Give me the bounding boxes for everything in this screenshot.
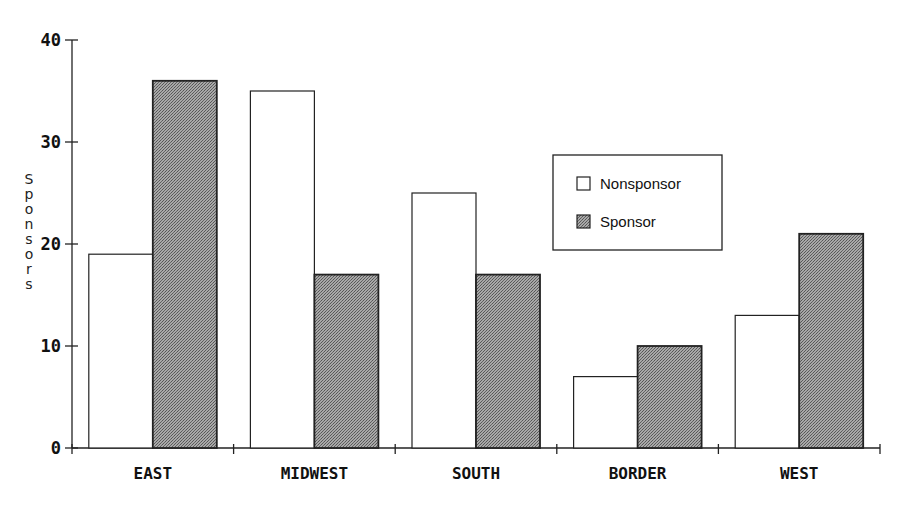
bar-nonsponsor-west <box>735 315 799 448</box>
legend-box <box>553 155 722 250</box>
y-axis-label-char: r <box>26 261 32 277</box>
legend-swatch-sponsor <box>577 215 590 228</box>
bar-chart: 010203040 EASTMIDWESTSOUTHBORDERWEST Spo… <box>0 0 905 512</box>
x-category-label: EAST <box>134 464 173 483</box>
y-axis-label: Sponsors <box>25 171 34 292</box>
bar-sponsor-south <box>476 275 540 448</box>
y-axis-label-char: o <box>25 246 34 262</box>
y-tick-label: 40 <box>41 30 61 50</box>
y-axis-label-char: S <box>25 171 34 187</box>
y-axis-label-char: p <box>25 186 34 202</box>
y-axis: 010203040 <box>41 30 78 458</box>
bar-sponsor-midwest <box>314 275 378 448</box>
bar-nonsponsor-midwest <box>250 91 314 448</box>
x-category-label: MIDWEST <box>281 464 348 483</box>
y-tick-label: 20 <box>41 234 61 254</box>
y-axis-label-char: o <box>25 201 34 217</box>
bar-sponsor-east <box>153 81 217 448</box>
y-axis-label-char: n <box>25 216 34 232</box>
x-category-label: BORDER <box>609 464 667 483</box>
x-category-label: SOUTH <box>452 464 500 483</box>
y-axis-label-char: s <box>25 276 32 292</box>
y-tick-label: 30 <box>41 132 61 152</box>
y-tick-label: 10 <box>41 336 61 356</box>
x-category-label: WEST <box>780 464 819 483</box>
y-axis-label-char: s <box>25 231 32 247</box>
y-tick-label: 0 <box>51 438 61 458</box>
bars <box>89 81 863 448</box>
legend-label-nonsponsor: Nonsponsor <box>600 175 681 192</box>
bar-sponsor-border <box>638 346 702 448</box>
bar-nonsponsor-border <box>574 377 638 448</box>
legend-label-sponsor: Sponsor <box>600 213 656 230</box>
bar-nonsponsor-south <box>412 193 476 448</box>
legend-swatch-nonsponsor <box>577 177 590 190</box>
bar-nonsponsor-east <box>89 254 153 448</box>
legend: Nonsponsor Sponsor <box>553 155 722 250</box>
x-axis: EASTMIDWESTSOUTHBORDERWEST <box>72 444 880 483</box>
bar-sponsor-west <box>799 234 863 448</box>
